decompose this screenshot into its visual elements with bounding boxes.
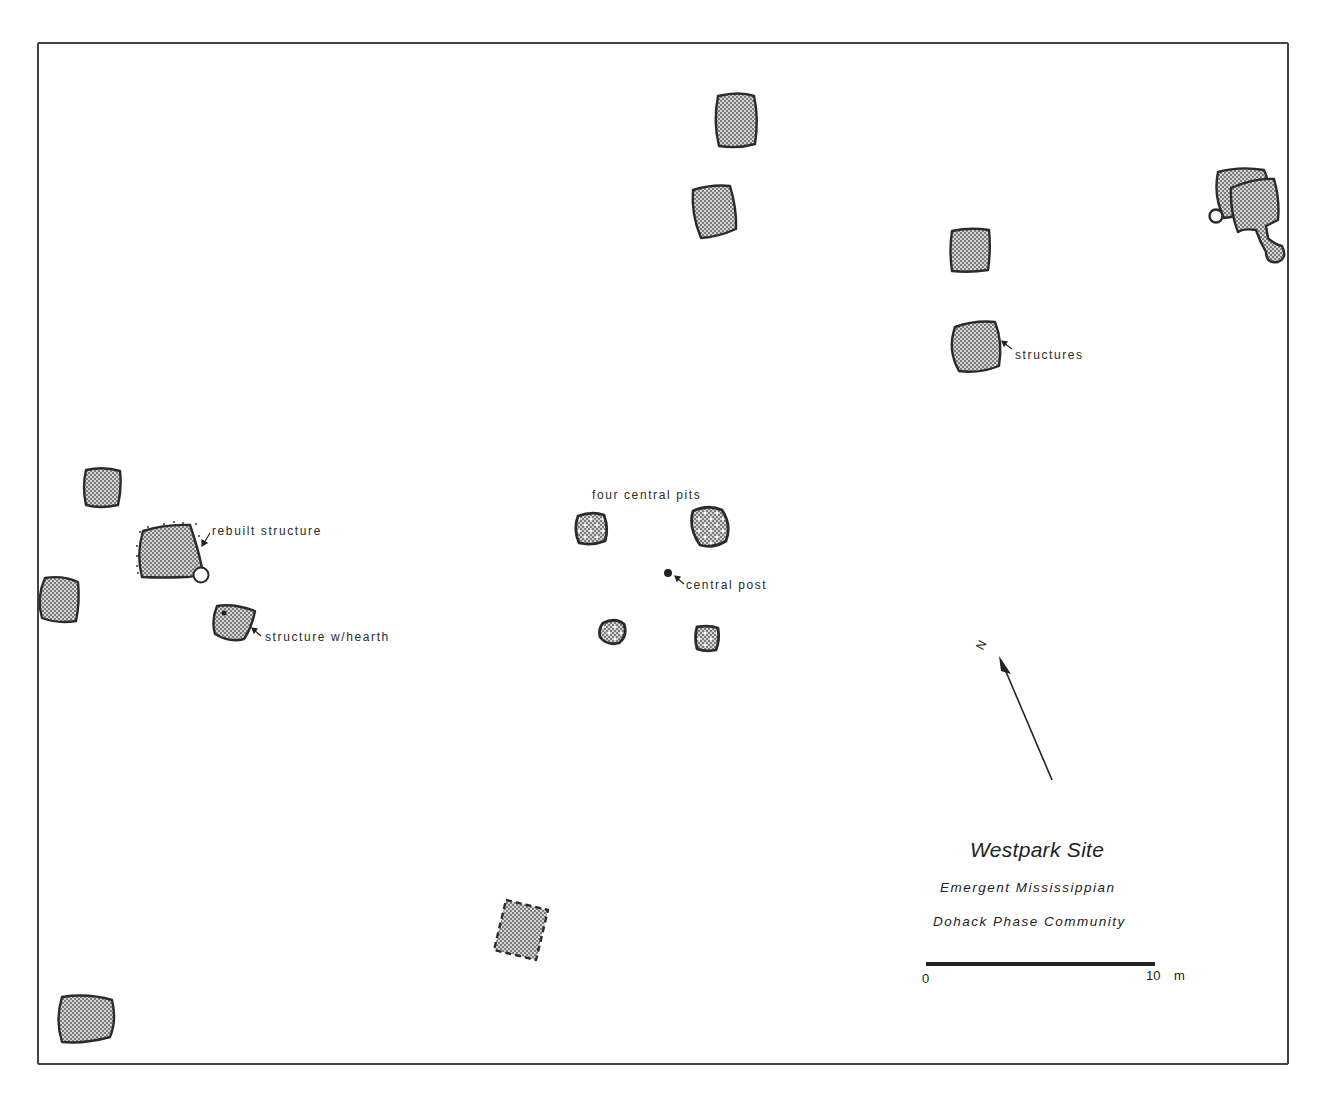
central-pit-sw [599,620,625,644]
structure-north-1 [716,94,757,148]
structure-northeast-1 [951,229,990,272]
label-central-post: central post [686,578,767,592]
label-structure-with-hearth: structure w/hearth [265,630,390,644]
central-pit-se [696,626,719,651]
site-map [0,0,1320,1099]
label-rebuilt-structure: rebuilt structure [212,524,322,538]
structure-west-edge [40,577,79,622]
structure-south-dashed [494,900,548,960]
central-pit-nw [576,513,607,544]
central-post [664,569,672,577]
map-frame [38,43,1288,1064]
structure-west-rebuilt [139,525,202,578]
map-subtitle-period: Emergent Mississippian [940,880,1116,895]
scale-end-label: 10 [1146,968,1160,983]
rebuilt-structure-attached-pit [194,568,209,583]
structure-west-1 [84,468,121,507]
structure-north-2 [693,186,736,239]
scale-start-label: 0 [922,971,929,986]
map-subtitle-phase: Dohack Phase Community [933,914,1126,929]
label-four-central-pits: four central pits [592,488,701,502]
structure-complex-east-edge [1210,168,1285,262]
central-pit-ne [692,507,729,546]
structure-southwest [59,996,115,1043]
north-arrow [999,656,1052,780]
structure-with-hearth [213,605,255,640]
label-structures: structures [1015,348,1084,362]
structure-northeast-2-labeled [952,322,1001,372]
scale-bar [926,962,1155,966]
scale-unit-label: m [1174,968,1185,983]
hearth [222,611,227,616]
map-title: Westpark Site [970,838,1104,862]
